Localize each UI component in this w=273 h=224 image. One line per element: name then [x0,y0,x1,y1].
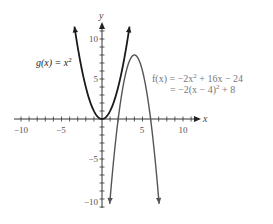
x-tick-label: −5 [56,125,66,135]
f-label-line2: = −2(x − 4)2 + 8 [170,83,235,96]
graph: −10 −5 5 10 10 5 −5 −10 x y g(x) = x2 f(… [0,0,273,224]
g-label: g(x) = x2 [36,56,72,69]
g-label-main: g(x) = x [36,57,69,69]
f-label-line1-b: + 16x − 24 [197,73,243,84]
f-label-line2-a: = −2(x − 4) [170,84,216,96]
f-label-line2-b: + 8 [220,84,236,95]
y-tick-label: −5 [88,154,98,164]
x-tick-label: 10 [179,125,189,135]
f-arrow-left-icon [108,198,113,204]
y-axis-label: y [98,10,104,21]
y-axis-arrow-icon [99,22,105,29]
y-tick-label: 10 [89,34,99,44]
y-tick-label: 5 [94,74,99,84]
x-axis-arrow-icon [194,116,201,122]
x-axis-label: x [202,113,208,124]
x-tick-label: −10 [14,125,29,135]
g-label-exponent: 2 [68,56,72,64]
x-tick-label: 5 [140,125,145,135]
y-tick-label: −10 [84,197,99,207]
f-arrow-right-icon [156,198,161,204]
